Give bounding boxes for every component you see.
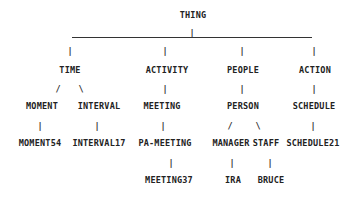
node-manager: MANAGER: [212, 139, 249, 148]
node-pa-meeting: PA-MEETING: [138, 139, 191, 148]
vertical-connector: |: [229, 159, 234, 168]
left-branch-connector: /: [227, 122, 232, 131]
node-moment54: MOMENT54: [19, 139, 62, 148]
node-people: PEOPLE: [227, 66, 259, 75]
vertical-connector: |: [267, 159, 272, 168]
node-bruce: BRUCE: [258, 176, 285, 185]
node-schedule: SCHEDULE: [293, 102, 336, 111]
vertical-connector: |: [37, 122, 42, 131]
vertical-connector: |: [189, 29, 194, 38]
vertical-connector: |: [162, 85, 167, 94]
right-branch-connector: \: [255, 122, 260, 131]
right-branch-connector: \: [78, 85, 83, 94]
node-action: ACTION: [299, 66, 331, 75]
node-moment: MOMENT: [26, 102, 58, 111]
node-meeting37: MEETING37: [145, 176, 193, 185]
vertical-connector: |: [94, 122, 99, 131]
vertical-connector: |: [239, 85, 244, 94]
vertical-connector: |: [311, 85, 316, 94]
node-person: PERSON: [227, 102, 259, 111]
vertical-connector: |: [160, 122, 165, 131]
node-interval17: INTERVAL17: [72, 139, 125, 148]
node-thing: THING: [180, 11, 207, 20]
node-interval: INTERVAL: [78, 102, 121, 111]
left-branch-connector: /: [55, 85, 60, 94]
vertical-connector: |: [311, 47, 316, 56]
node-schedule21: SCHEDULE21: [286, 139, 339, 148]
node-staff: STAFF: [253, 139, 280, 148]
vertical-connector: |: [162, 47, 167, 56]
node-activity: ACTIVITY: [146, 66, 189, 75]
node-meeting: MEETING: [143, 102, 180, 111]
vertical-connector: |: [310, 122, 315, 131]
vertical-connector: |: [239, 47, 244, 56]
node-time: TIME: [59, 66, 80, 75]
vertical-connector: |: [168, 159, 173, 168]
vertical-connector: |: [67, 47, 72, 56]
node-ira: IRA: [225, 176, 241, 185]
